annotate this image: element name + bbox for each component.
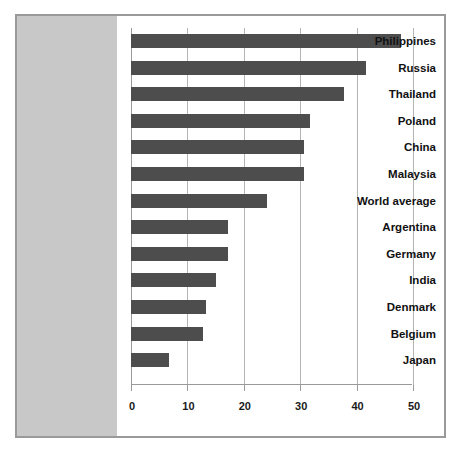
category-label: India [409, 267, 436, 293]
bar-row [117, 267, 444, 293]
bar [131, 247, 228, 261]
x-tick-label-20: 20 [239, 400, 251, 412]
x-tick-mark-40 [357, 385, 358, 391]
bar [131, 167, 304, 181]
category-label: World average [357, 188, 436, 214]
bar-row [117, 108, 444, 134]
category-label: Belgium [391, 321, 436, 347]
bar-row [117, 347, 444, 373]
bar [131, 220, 228, 234]
category-label-panel [17, 16, 117, 436]
bar [131, 300, 206, 314]
bar [131, 273, 216, 287]
category-label: Philippines [375, 28, 436, 54]
bar [131, 114, 310, 128]
category-label: Thailand [389, 81, 436, 107]
bar [131, 353, 169, 367]
category-label: Japan [403, 347, 436, 373]
category-label: Germany [386, 241, 436, 267]
category-label: Denmark [387, 294, 436, 320]
category-label: Malaysia [388, 161, 436, 187]
x-axis-baseline [131, 384, 412, 385]
x-tick-mark-20 [244, 385, 245, 391]
x-tick-label-30: 30 [295, 400, 307, 412]
x-tick-label-40: 40 [351, 400, 363, 412]
x-tick-mark-0 [131, 385, 132, 391]
bar [131, 87, 344, 101]
category-label: Argentina [382, 214, 436, 240]
bar [131, 140, 304, 154]
bar [131, 327, 203, 341]
x-tick-label-10: 10 [182, 400, 194, 412]
category-label: China [404, 134, 436, 160]
category-label: Russia [398, 55, 436, 81]
x-tick-mark-50 [413, 385, 414, 391]
bar-row [117, 55, 444, 81]
x-tick-label-50: 50 [408, 400, 420, 412]
bar [131, 61, 366, 75]
bar [131, 194, 267, 208]
bar-chart-figure: 01020304050 PhilippinesRussiaThailandPol… [15, 14, 446, 438]
bar-row [117, 134, 444, 160]
category-label: Poland [398, 108, 436, 134]
x-tick-label-0: 0 [129, 400, 135, 412]
x-tick-mark-10 [187, 385, 188, 391]
bar [131, 34, 401, 48]
x-tick-mark-30 [300, 385, 301, 391]
